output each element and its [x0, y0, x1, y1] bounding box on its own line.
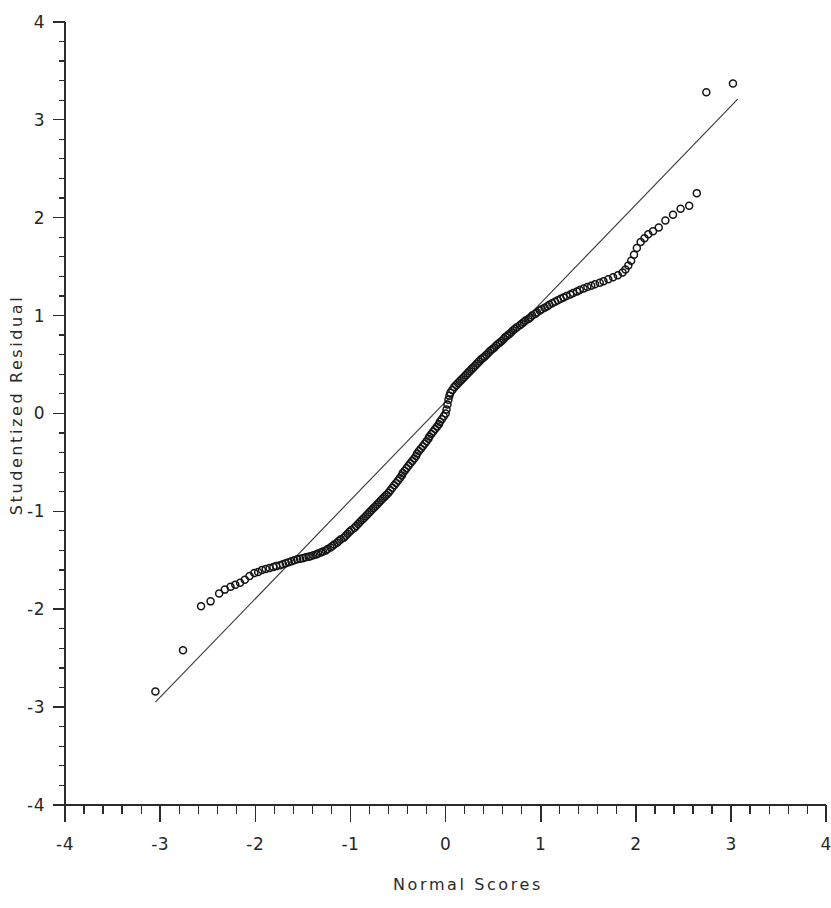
- x-tick-label: 4: [821, 834, 831, 854]
- x-tick-label: 3: [725, 834, 736, 854]
- x-tick-label: -2: [246, 834, 264, 854]
- data-point-marker: [703, 89, 710, 96]
- x-tick-label: -3: [151, 834, 169, 854]
- x-tick-label: -4: [56, 834, 74, 854]
- y-tick-label: -3: [27, 697, 45, 717]
- data-points: [152, 80, 737, 695]
- y-tick-label: 4: [34, 12, 45, 32]
- data-point-marker: [693, 190, 700, 197]
- data-point-marker: [631, 251, 638, 258]
- data-point-marker: [152, 688, 159, 695]
- x-tick-label: 1: [535, 834, 546, 854]
- data-point-marker: [662, 217, 669, 224]
- y-tick-label: 1: [34, 306, 45, 326]
- x-tick-label: 0: [440, 834, 451, 854]
- data-point-marker: [655, 224, 662, 231]
- y-tick-label: 2: [34, 208, 45, 228]
- y-tick-label: -4: [27, 795, 45, 815]
- chart-canvas: -4-3-2-101234 -4-3-2-101234 Normal Score…: [0, 0, 831, 908]
- y-axis-title: Studentized Residual: [7, 295, 26, 515]
- data-point-marker: [729, 80, 736, 87]
- data-point-marker: [670, 211, 677, 218]
- y-axis-tick-labels: -4-3-2-101234: [27, 12, 45, 815]
- y-tick-label: -2: [27, 599, 45, 619]
- data-point-marker: [686, 202, 693, 209]
- x-tick-label: 2: [630, 834, 641, 854]
- y-tick-label: 3: [34, 110, 45, 130]
- data-point-marker: [198, 603, 205, 610]
- y-tick-label: -1: [27, 501, 45, 521]
- x-tick-label: -1: [341, 834, 359, 854]
- qq-plot-figure: -4-3-2-101234 -4-3-2-101234 Normal Score…: [0, 0, 831, 908]
- y-tick-label: 0: [34, 403, 45, 423]
- data-point-marker: [677, 205, 684, 212]
- data-point-marker: [179, 647, 186, 654]
- data-point-marker: [207, 598, 214, 605]
- x-axis-title: Normal Scores: [393, 875, 543, 894]
- x-axis-tick-labels: -4-3-2-101234: [56, 834, 831, 854]
